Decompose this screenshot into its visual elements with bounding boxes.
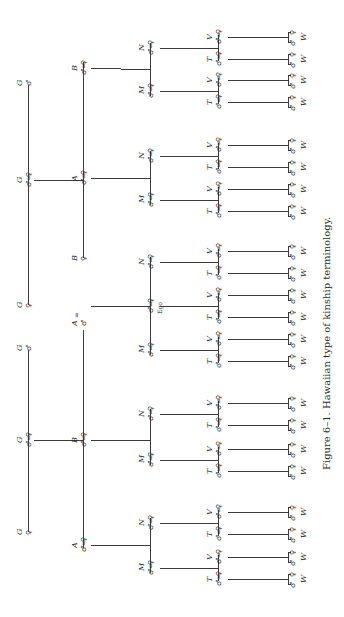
parent-descent-1	[91, 68, 150, 70]
grandchild-female-symbol: ♀	[289, 572, 297, 577]
grandchild-female-symbol: ♀	[289, 266, 297, 271]
grandchild-label: W	[299, 206, 308, 215]
sibling-3-1-label: N	[137, 257, 146, 266]
grandchild-male-symbol: ♂	[289, 364, 297, 370]
child-t-female-symbol: ♀	[215, 265, 223, 270]
grandparent-couple-2-label: G	[15, 436, 24, 443]
grandchild-label: W	[299, 334, 308, 343]
child-t-female-symbol: ♀	[215, 203, 223, 208]
child-v-label: V	[205, 141, 214, 148]
grandchild-female-symbol: ♀	[289, 332, 297, 337]
grandchild-female-symbol: ♀	[289, 354, 297, 359]
sibling-2-1-female-symbol: ♀	[147, 148, 155, 153]
grandchild-male-symbol: ♂	[289, 560, 297, 566]
grandchild-female-symbol: ♀	[289, 396, 297, 401]
child-v-female-symbol: ♀	[215, 72, 223, 77]
child-t-label: T	[205, 208, 214, 214]
grandparent-couple-1-label: G	[15, 176, 24, 183]
sibling-1-1-female-symbol: ♀	[147, 40, 155, 45]
child-v-female-symbol: ♀	[215, 181, 223, 186]
grandparent-4-male-symbol: ♂	[25, 345, 33, 351]
sibling-4-1-female-symbol: ♀	[147, 406, 155, 411]
grandchild-male-symbol: ♂	[289, 474, 297, 480]
grandchild-female-symbol: ♀	[289, 52, 297, 57]
grandchild-female-symbol: ♀	[289, 527, 297, 532]
child-t-label: T	[205, 358, 214, 364]
grandparent-3-label: G	[15, 301, 24, 308]
grandchild-label: W	[299, 162, 308, 171]
grandchild-female-symbol: ♀	[289, 244, 297, 249]
grandparent-couple-1-female-symbol: ♀	[25, 172, 33, 177]
child-v-label: V	[205, 33, 214, 40]
child-t-female-symbol: ♀	[215, 309, 223, 314]
child-v-female-symbol: ♀	[215, 287, 223, 292]
parent-couple-a1-label: A	[70, 175, 79, 182]
grandparent-1-label: G	[15, 79, 24, 86]
grandchild-male-symbol: ♂	[289, 105, 297, 111]
grandparent-1-male-symbol: ♂	[25, 80, 33, 86]
grandchild-female-symbol: ♀	[289, 182, 297, 187]
grandchild-male-symbol: ♂	[289, 406, 297, 412]
grandchild-female-symbol: ♀	[289, 160, 297, 165]
child-t-female-symbol: ♀	[215, 353, 223, 358]
grandchild-male-symbol: ♂	[289, 148, 297, 154]
sibling-3-1-female-symbol: ♀	[147, 254, 155, 259]
grandchild-male-symbol: ♂	[289, 214, 297, 220]
child-v-label: V	[205, 445, 214, 452]
child-v-female-symbol: ♀	[215, 549, 223, 554]
grandparent-6-female-symbol: ♀	[25, 530, 33, 535]
parent-couple-b1-female-symbol: ♀	[80, 60, 88, 65]
grandchild-label: W	[299, 75, 308, 84]
grandchild-label: W	[299, 290, 308, 299]
grandparent-3-female-symbol: ♀	[25, 303, 33, 308]
grandchild-female-symbol: ♀	[289, 30, 297, 35]
grandchild-label: W	[299, 552, 308, 561]
grandchild-label: W	[299, 574, 308, 583]
grandchild-label: W	[299, 529, 308, 538]
grandchild-male-symbol: ♂	[289, 170, 297, 176]
child-v-female-symbol: ♀	[215, 137, 223, 142]
child-v-label: V	[205, 76, 214, 83]
parent-couple-a2-female-symbol: ♀	[80, 537, 88, 542]
child-v-female-symbol: ♀	[215, 441, 223, 446]
grandchild-label: W	[299, 268, 308, 277]
grandparent-4-label: G	[15, 344, 24, 351]
grandchild-label: W	[299, 312, 308, 321]
grandchild-label: W	[299, 398, 308, 407]
child-v-female-symbol: ♀	[215, 243, 223, 248]
grandchild-label: W	[299, 420, 308, 429]
grandchild-female-symbol: ♀	[289, 138, 297, 143]
grandchild-female-symbol: ♀	[289, 288, 297, 293]
sibling-1-1-label: N	[137, 43, 146, 52]
grandchild-female-symbol: ♀	[289, 95, 297, 100]
child-v-label: V	[205, 399, 214, 406]
sibling-1-2-label: M	[137, 85, 146, 95]
grandchild-male-symbol: ♂	[289, 428, 297, 434]
grandchild-male-symbol: ♂	[289, 83, 297, 89]
grandchild-female-symbol: ♀	[289, 418, 297, 423]
ego-female-symbol: ♀	[147, 298, 155, 303]
grandchild-female-symbol: ♀	[289, 505, 297, 510]
child-v-label: V	[205, 247, 214, 254]
grandparent-couple-2-female-symbol: ♀	[25, 432, 33, 437]
parent-couple-b1-label: B	[70, 65, 79, 72]
sibling-4-1-label: N	[137, 409, 146, 418]
grandchild-male-symbol: ♂	[289, 254, 297, 260]
kinship-diagram: G♂=♀G♂G♀G♂G♂=♀G♀B♂=♀A♂=♀B♂=♀A♂=♀B♀A♂=N♂=…	[0, 0, 344, 617]
grandchild-label: W	[299, 444, 308, 453]
sibling-1-2-female-symbol: ♀	[147, 83, 155, 88]
child-t-label: T	[205, 314, 214, 320]
ego-label: Ego	[156, 302, 164, 314]
parent-couple-b2-label: B	[70, 437, 79, 444]
child-v-female-symbol: ♀	[215, 29, 223, 34]
child-t-label: T	[205, 99, 214, 105]
child-v-female-symbol: ♀	[215, 331, 223, 336]
parent-b-center-female-symbol: ♀	[80, 256, 88, 261]
parent-a-center-male-symbol: ♂	[80, 320, 88, 326]
grandchild-label: W	[299, 184, 308, 193]
grandchild-male-symbol: ♂	[289, 452, 297, 458]
child-t-label: T	[205, 270, 214, 276]
child-t-label: T	[205, 164, 214, 170]
child-t-label: T	[205, 56, 214, 62]
child-t-label: T	[205, 576, 214, 582]
